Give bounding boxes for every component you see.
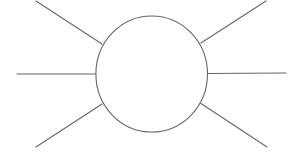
branch-line-bottom-right <box>201 104 267 148</box>
center-node-circle <box>96 16 208 132</box>
branch-line-bottom-left <box>36 104 102 147</box>
branch-line-top-left <box>36 1 102 44</box>
spider-diagram <box>0 0 295 160</box>
diagram-canvas <box>0 0 295 160</box>
branch-line-middle-right <box>207 73 286 74</box>
branch-line-top-right <box>201 1 266 43</box>
